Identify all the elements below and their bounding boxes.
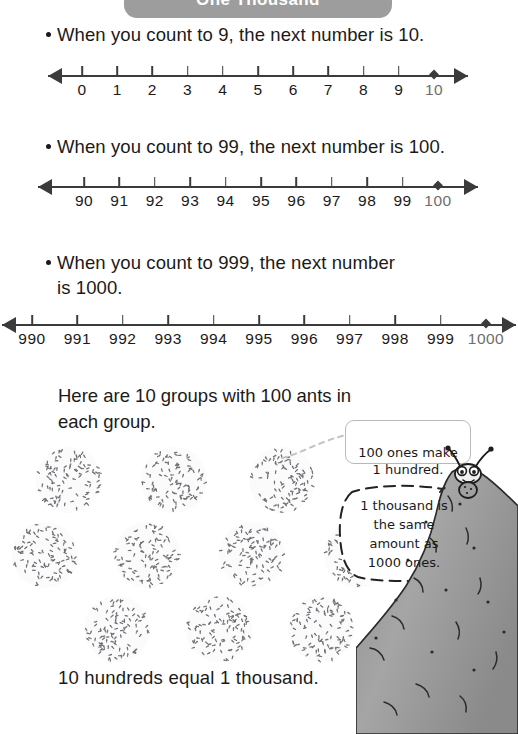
number-line-label: 99 xyxy=(393,192,411,210)
thousand-callout: 1 thousand is the same amount as 1000 on… xyxy=(336,484,472,584)
number-line-tick xyxy=(119,177,121,187)
number-line-tick xyxy=(225,177,227,187)
number-line-label: 992 xyxy=(109,330,136,348)
page-title-banner: One Thousand xyxy=(124,0,392,18)
ant-character-icon xyxy=(438,444,500,500)
number-line-label: 97 xyxy=(323,192,341,210)
number-line-label: 94 xyxy=(216,192,234,210)
number-line-label: 10 xyxy=(425,81,443,99)
number-line-label: 997 xyxy=(336,330,363,348)
number-line-tick xyxy=(189,177,191,187)
left-arrow-icon xyxy=(2,317,16,333)
number-line-label: 93 xyxy=(181,192,199,210)
number-line-label: 6 xyxy=(289,81,298,99)
number-line-tick xyxy=(304,315,306,325)
left-arrow-icon xyxy=(38,179,52,195)
number-line-tick xyxy=(167,315,169,325)
bullet-dot-icon xyxy=(46,144,51,149)
number-line-label: 995 xyxy=(245,330,272,348)
number-line-tick xyxy=(260,177,262,187)
number-line-tick xyxy=(81,66,83,76)
number-line-tick xyxy=(258,315,260,325)
number-line-marker xyxy=(433,181,443,191)
number-line-label: 2 xyxy=(148,81,157,99)
number-line-tick xyxy=(187,66,189,76)
number-line-tick xyxy=(154,177,156,187)
number-line-tick xyxy=(363,66,365,76)
left-arrow-icon xyxy=(48,68,62,84)
number-line-label: 996 xyxy=(291,330,318,348)
number-line-label: 994 xyxy=(200,330,227,348)
number-line-tick xyxy=(292,66,294,76)
number-line-tick xyxy=(222,66,224,76)
ones-number-line: 012345678910 xyxy=(48,64,468,104)
bullet-item-ones: When you count to 9, the next number is … xyxy=(46,22,424,47)
number-line-tick xyxy=(116,66,118,76)
bullet-text-ones: When you count to 9, the next number is … xyxy=(57,22,424,47)
number-line-label: 8 xyxy=(359,81,368,99)
ant-group xyxy=(215,518,289,592)
number-line-tick xyxy=(31,315,33,325)
bullet-dot-icon xyxy=(46,260,51,265)
number-line-label: 1000 xyxy=(468,330,504,348)
number-line-tick xyxy=(257,66,259,76)
number-line-tick xyxy=(77,315,79,325)
right-arrow-icon xyxy=(464,179,478,195)
number-line-label: 999 xyxy=(427,330,454,348)
thousand-callout-text: 1 thousand is the same amount as 1000 on… xyxy=(346,496,462,572)
number-line-tick xyxy=(366,177,368,187)
number-line-label: 1 xyxy=(113,81,122,99)
number-line-tick xyxy=(296,177,298,187)
page-title: One Thousand xyxy=(196,0,320,9)
number-line-marker xyxy=(429,70,439,80)
number-line-tick xyxy=(440,315,442,325)
ant-group xyxy=(8,518,82,592)
number-line-label: 4 xyxy=(218,81,227,99)
number-line-tick xyxy=(349,315,351,325)
number-line-marker xyxy=(481,319,491,329)
number-line-label: 7 xyxy=(324,81,333,99)
number-line-label: 998 xyxy=(382,330,409,348)
number-line-tick xyxy=(331,177,333,187)
right-arrow-icon xyxy=(454,68,468,84)
number-line-label: 91 xyxy=(110,192,128,210)
ant-group xyxy=(284,592,358,666)
ants-conclusion-text: 10 hundreds equal 1 thousand. xyxy=(58,667,319,689)
number-line-label: 990 xyxy=(18,330,45,348)
ant-group xyxy=(110,518,184,592)
ant-group xyxy=(80,592,154,666)
number-line-tick xyxy=(213,315,215,325)
bullet-text-hundreds: When you count to 999, the next number i… xyxy=(57,250,395,300)
number-line-tick xyxy=(83,177,85,187)
number-line-label: 92 xyxy=(146,192,164,210)
number-line-label: 100 xyxy=(424,192,451,210)
number-line-label: 95 xyxy=(252,192,270,210)
ant-group xyxy=(32,443,106,517)
bullet-dot-icon xyxy=(46,32,51,37)
number-line-label: 90 xyxy=(75,192,93,210)
number-line-tick xyxy=(402,177,404,187)
number-line-axis xyxy=(38,186,478,188)
number-line-label: 5 xyxy=(253,81,262,99)
number-line-tick xyxy=(398,66,400,76)
number-line-label: 991 xyxy=(64,330,91,348)
number-line-label: 3 xyxy=(183,81,192,99)
number-line-label: 0 xyxy=(77,81,86,99)
number-line-tick xyxy=(122,315,124,325)
bullet-item-hundreds: When you count to 999, the next number i… xyxy=(46,250,466,300)
bullet-text-tens: When you count to 99, the next number is… xyxy=(57,134,445,159)
tens-number-line: 90919293949596979899100 xyxy=(38,175,478,215)
ant-group xyxy=(182,592,256,666)
hundreds-number-line: 9909919929939949959969979989991000 xyxy=(2,313,516,353)
number-line-tick xyxy=(394,315,396,325)
number-line-label: 993 xyxy=(155,330,182,348)
ant-group xyxy=(137,443,211,517)
number-line-tick xyxy=(328,66,330,76)
number-line-label: 98 xyxy=(358,192,376,210)
number-line-label: 9 xyxy=(394,81,403,99)
bullet-item-tens: When you count to 99, the next number is… xyxy=(46,134,445,159)
number-line-label: 96 xyxy=(287,192,305,210)
number-line-tick xyxy=(152,66,154,76)
